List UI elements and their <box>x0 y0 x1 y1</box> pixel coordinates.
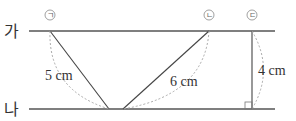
marker-digeut: ㄷ <box>249 11 256 20</box>
measure-nieun: 6 cm <box>170 74 198 89</box>
measure-digeut: 4 cm <box>258 63 286 78</box>
right-angle-icon <box>245 102 252 109</box>
parallel-lines-diagram: 가 나 ㄱ 5 cm ㄴ 6 cm ㄷ 4 cm <box>0 0 296 121</box>
marker-giyeok: ㄱ <box>47 11 54 20</box>
line-na-label: 나 <box>4 100 19 119</box>
measure-giyeok: 5 cm <box>45 68 73 83</box>
line-ga-label: 가 <box>4 22 19 41</box>
marker-nieun: ㄴ <box>206 11 213 20</box>
